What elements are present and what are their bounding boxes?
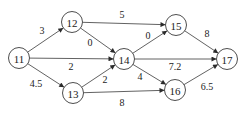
node-15: 15 [166, 15, 187, 36]
node-16: 16 [165, 80, 186, 101]
edge-12-14 [81, 28, 116, 53]
node-11: 11 [9, 48, 30, 69]
arrow-icon [29, 58, 113, 59]
edge-13-16 [83, 90, 164, 92]
edge-13-14 [82, 65, 116, 87]
edge-weight-label: 8 [120, 97, 125, 108]
edge-weight-label: 2 [69, 61, 74, 72]
edge-12-15 [82, 22, 165, 24]
network-diagram: 324.5502807.2486.5 11121314151617 [0, 0, 246, 117]
node-label: 11 [14, 53, 25, 65]
arrow-icon [28, 28, 64, 52]
node-label: 12 [67, 17, 78, 29]
arrow-icon [81, 28, 116, 53]
edge-weight-label: 4 [138, 71, 143, 82]
edge-15-17 [185, 31, 219, 53]
edge-weight-label: 8 [205, 28, 210, 39]
edge-weight-label: 3 [40, 25, 45, 36]
node-label: 17 [222, 54, 234, 66]
arrow-icon [185, 31, 219, 53]
edge-weight-label: 4.5 [30, 78, 43, 89]
node-label: 14 [119, 54, 131, 66]
node-17: 17 [217, 49, 238, 70]
node-label: 16 [170, 85, 182, 97]
node-13: 13 [63, 83, 84, 104]
edge-weight-label: 7.2 [169, 61, 182, 72]
edge-weight-label: 5 [120, 9, 125, 20]
edge-weight-label: 0 [88, 37, 93, 48]
node-label: 13 [68, 88, 80, 100]
edge-11-12 [28, 28, 64, 52]
edge-weight-label: 2 [103, 74, 108, 85]
arrow-icon [82, 65, 116, 87]
edge-weight-label: 6.5 [201, 81, 214, 92]
edge-weight-label: 0 [146, 30, 151, 41]
arrow-icon [82, 22, 165, 24]
arrow-icon [83, 90, 164, 92]
edge-11-14 [29, 58, 113, 59]
node-label: 15 [171, 20, 183, 32]
node-12: 12 [62, 12, 83, 33]
node-14: 14 [114, 49, 135, 70]
